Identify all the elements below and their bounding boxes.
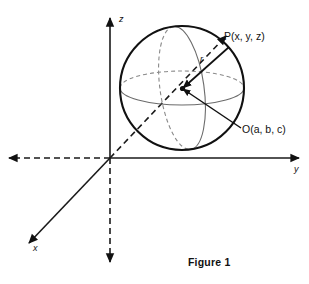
coordinate-sphere-svg: z y x [0, 0, 309, 284]
equator-back-arc [120, 71, 244, 88]
z-axis-label: z [118, 14, 124, 24]
z-axis: z [110, 14, 124, 262]
y-axis-label: y [293, 164, 299, 174]
sphere-center-dot [180, 86, 185, 91]
center-leader-group [183, 89, 241, 128]
center-leader-line [183, 89, 241, 128]
y-axis: y [9, 158, 299, 174]
meridian-front-arc [173, 24, 212, 150]
figure-1-diagram: z y x [0, 0, 309, 284]
point-o-label: O(a, b, c) [242, 123, 286, 135]
x-axis-negative-ray [110, 36, 226, 158]
figure-caption: Figure 1 [188, 256, 230, 268]
radius-group: r [183, 47, 229, 88]
x-axis-positive-ray [29, 158, 110, 243]
x-axis-label: x [32, 243, 38, 253]
radius-label: r [200, 54, 204, 64]
point-p-label: P(x, y, z) [224, 30, 265, 42]
x-axis: x [29, 36, 226, 253]
radius-segment [183, 47, 229, 88]
